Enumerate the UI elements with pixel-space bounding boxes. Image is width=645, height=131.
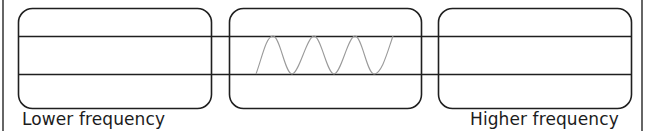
panel-right xyxy=(439,9,632,109)
label-lower-frequency: Lower frequency xyxy=(22,109,165,129)
sine-wave xyxy=(256,36,393,74)
label-higher-frequency: Higher frequency xyxy=(470,109,619,129)
panel-left xyxy=(19,9,212,109)
